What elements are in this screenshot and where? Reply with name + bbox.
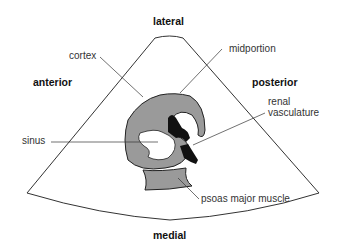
label-midportion: midportion (229, 43, 276, 54)
label-posterior: posterior (252, 77, 298, 88)
label-sinus: sinus (22, 135, 45, 146)
label-renal: renal (268, 96, 290, 107)
label-cortex: cortex (69, 50, 96, 61)
cortex-leader (100, 57, 143, 97)
label-vasculature: vasculature (268, 107, 319, 118)
psoas-leader (178, 178, 199, 199)
ultrasound-diagram (0, 0, 337, 246)
label-anterior: anterior (33, 77, 72, 88)
midportion-leader (180, 49, 222, 93)
psoas-major-muscle (143, 168, 192, 190)
label-lateral: lateral (153, 16, 184, 27)
label-medial: medial (153, 230, 186, 241)
label-psoas: psoas major muscle (201, 193, 290, 204)
